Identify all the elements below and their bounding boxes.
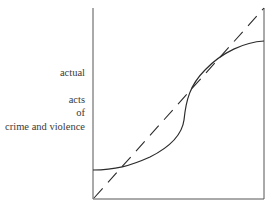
s-curve-line	[93, 41, 264, 170]
dashed-reference-line	[94, 8, 264, 198]
diagram-canvas	[0, 0, 280, 211]
